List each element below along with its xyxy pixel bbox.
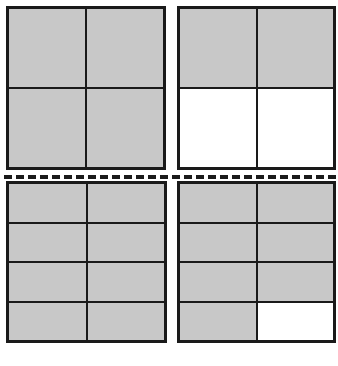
shaded-cell (9, 303, 86, 341)
shaded-cell (258, 224, 334, 262)
shaded-cell (180, 9, 256, 87)
dashed-divider (4, 175, 336, 179)
unshaded-cell (258, 303, 334, 341)
fraction-grid-top-left (6, 6, 166, 170)
shaded-cell (9, 184, 86, 222)
shaded-cell (88, 303, 165, 341)
fraction-grid-bottom-left (6, 181, 167, 343)
shaded-cell (258, 9, 334, 87)
shaded-cell (9, 263, 86, 301)
shaded-cell (88, 263, 165, 301)
shaded-cell (9, 9, 85, 87)
fraction-grid-bottom-right (177, 181, 336, 343)
shaded-cell (258, 263, 334, 301)
shaded-cell (9, 89, 85, 167)
shaded-cell (180, 184, 256, 222)
shaded-cell (88, 224, 165, 262)
fraction-grid-top-right (177, 6, 336, 170)
shaded-cell (180, 224, 256, 262)
shaded-cell (88, 184, 165, 222)
shaded-cell (87, 9, 163, 87)
shaded-cell (87, 89, 163, 167)
shaded-cell (180, 263, 256, 301)
shaded-cell (180, 303, 256, 341)
shaded-cell (258, 184, 334, 222)
unshaded-cell (258, 89, 334, 167)
unshaded-cell (180, 89, 256, 167)
shaded-cell (9, 224, 86, 262)
